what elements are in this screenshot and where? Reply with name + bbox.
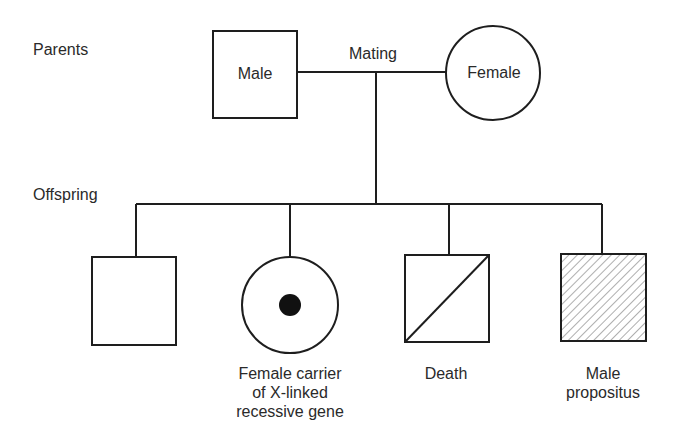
propositus-caption: Male propositus (566, 364, 640, 402)
parents-row-label: Parents (33, 40, 88, 59)
death-caption: Death (425, 364, 468, 383)
offspring-row-label: Offspring (33, 185, 98, 204)
offspring-male-square (92, 257, 176, 345)
caption-line: of X-linked (236, 383, 344, 402)
carrier-caption: Female carrier of X-linked recessive gen… (236, 364, 344, 421)
caption-line: propositus (566, 383, 640, 402)
caption-line: recessive gene (236, 402, 344, 421)
caption-line: Female carrier (236, 364, 344, 383)
female-label: Female (467, 63, 520, 82)
caption-line: Male (566, 364, 640, 383)
propositus-square (561, 254, 646, 341)
mating-label: Mating (349, 44, 397, 63)
male-label: Male (238, 64, 273, 83)
caption-line: Death (425, 364, 468, 383)
carrier-dot-icon (279, 294, 301, 316)
